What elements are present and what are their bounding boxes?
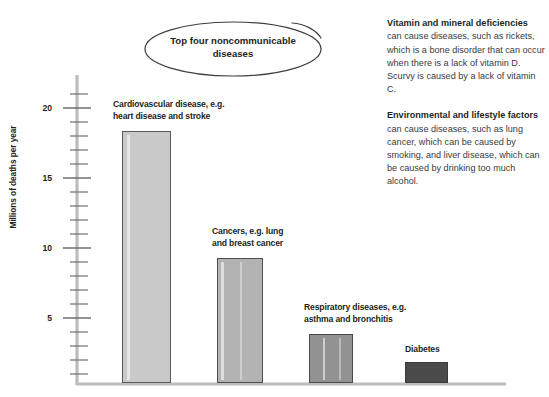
chart-title-text: Top four noncommunicable diseases — [156, 34, 310, 60]
y-tick-label-5: 5 — [26, 313, 52, 323]
bar-respiratory — [309, 334, 353, 383]
bar-label-diabetes: Diabetes — [405, 344, 515, 356]
bar-highlight — [323, 338, 325, 380]
paragraph-environmental-lifestyle: Environmental and lifestyle factors can … — [387, 109, 545, 188]
paragraph-body: can cause diseases, such as rickets, whi… — [387, 31, 545, 94]
paragraph-lead: Vitamin and mineral deficiencies — [387, 18, 528, 28]
side-text-panel: Vitamin and mineral deficiencies can cau… — [387, 8, 545, 202]
y-tick-label-20: 20 — [26, 103, 52, 113]
bar-label-line2: and breast cancer — [212, 238, 283, 248]
bar-label-cardiovascular: Cardiovascular disease, e.g. heart disea… — [113, 99, 243, 122]
paragraph-body: can cause diseases, such as lung cancer,… — [387, 124, 540, 187]
bar-label-respiratory: Respiratory diseases, e.g. asthma and br… — [304, 302, 434, 325]
bar-label-line1: Respiratory diseases, e.g. — [304, 302, 406, 312]
chart-title-line1: Top four noncommunicable — [170, 35, 296, 46]
bar-chart: Millions of deaths per year 20 15 10 5 C… — [0, 0, 380, 397]
y-axis-title: Millions of deaths per year — [8, 112, 18, 242]
bar-highlight — [127, 135, 130, 380]
y-tick-label-10: 10 — [26, 243, 52, 253]
bar-label-line2: asthma and bronchitis — [304, 314, 393, 324]
bar-label-line1: Diabetes — [405, 344, 440, 354]
y-tick-label-15: 15 — [26, 173, 52, 183]
chart-title-line2: diseases — [213, 48, 254, 59]
bar-label-line2: heart disease and stroke — [113, 111, 210, 121]
figure-root: Millions of deaths per year 20 15 10 5 C… — [0, 0, 549, 397]
chart-title-callout: Top four noncommunicable diseases — [142, 18, 324, 80]
bar-label-cancers: Cancers, e.g. lung and breast cancer — [212, 226, 332, 249]
paragraph-lead: Environmental and lifestyle factors — [387, 110, 538, 120]
bar-diabetes — [405, 362, 448, 383]
bar-highlight-secondary — [339, 338, 341, 380]
bar-label-line1: Cardiovascular disease, e.g. — [113, 99, 224, 109]
bar-highlight — [221, 262, 224, 380]
bar-highlight-secondary — [240, 262, 242, 380]
paragraph-vitamin-mineral: Vitamin and mineral deficiencies can cau… — [387, 17, 545, 96]
bar-cancers — [217, 258, 263, 383]
bar-label-line1: Cancers, e.g. lung — [212, 226, 283, 236]
bar-cardiovascular — [122, 131, 171, 383]
